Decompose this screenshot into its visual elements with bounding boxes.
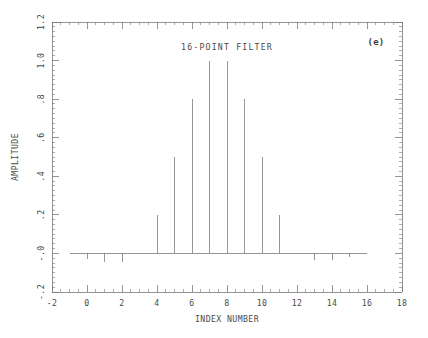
x-tick-label: 8 bbox=[224, 298, 229, 308]
y-tick-label: .6 bbox=[36, 132, 46, 143]
y-tick-label: 1.2 bbox=[36, 14, 46, 30]
y-tick-label: -.2 bbox=[36, 284, 46, 300]
y-tick-label: .2 bbox=[36, 210, 46, 221]
plot-title: 16-POINT FILTER bbox=[181, 42, 273, 52]
x-tick-label: 6 bbox=[189, 298, 194, 308]
panel-label: (e) bbox=[367, 37, 384, 47]
x-tick-label: 16 bbox=[362, 298, 373, 308]
x-tick-label: 18 bbox=[397, 298, 408, 308]
y-tick-label: .8 bbox=[36, 94, 46, 105]
y-tick-label: -.0 bbox=[36, 245, 46, 261]
y-axis-title: AMPLITUDE bbox=[10, 133, 20, 181]
x-tick-label: 14 bbox=[327, 298, 338, 308]
x-tick-label: 4 bbox=[154, 298, 159, 308]
y-tick-label: .4 bbox=[36, 171, 46, 182]
y-tick-label: 1.0 bbox=[36, 53, 46, 69]
x-tick-label: -2 bbox=[47, 298, 58, 308]
x-axis-title: INDEX NUMBER bbox=[195, 314, 259, 324]
x-tick-label: 12 bbox=[292, 298, 303, 308]
x-tick-label: 10 bbox=[257, 298, 268, 308]
x-tick-label: 0 bbox=[84, 298, 89, 308]
chart-svg: -2024681012141618 -.2-.0.2.4.6.81.01.2 1… bbox=[0, 0, 428, 338]
x-tick-label: 2 bbox=[119, 298, 124, 308]
